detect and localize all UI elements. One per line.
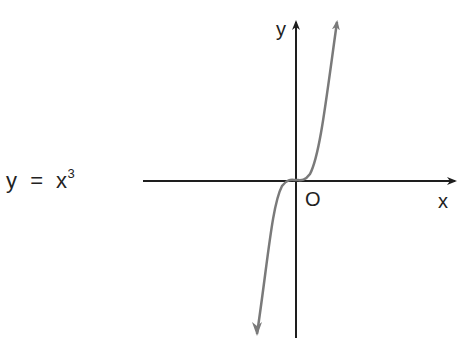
curve-lower-arrow-icon xyxy=(252,322,262,336)
origin-label: O xyxy=(305,188,321,211)
cubic-graph xyxy=(0,0,470,350)
x-axis-label: x xyxy=(438,190,448,213)
y-axis-label: y xyxy=(276,18,286,41)
